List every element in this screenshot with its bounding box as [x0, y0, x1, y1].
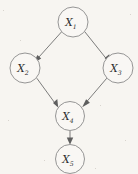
node-x5[interactable]: X5	[56, 145, 85, 174]
dag-figure: X1 X2 X3 X4 X5	[0, 0, 138, 174]
edge-x3-to-x4	[82, 78, 107, 107]
edge-x4-to-x5	[67, 131, 73, 145]
edge-x1-to-x2	[34, 32, 62, 63]
dag-canvas: X1 X2 X3 X4 X5	[0, 0, 138, 174]
edge-x2-to-x4	[37, 78, 58, 107]
node-x1[interactable]: X1	[58, 7, 88, 37]
node-x2[interactable]: X2	[10, 53, 40, 83]
node-x3[interactable]: X3	[103, 53, 133, 83]
node-x4[interactable]: X4	[56, 102, 85, 131]
